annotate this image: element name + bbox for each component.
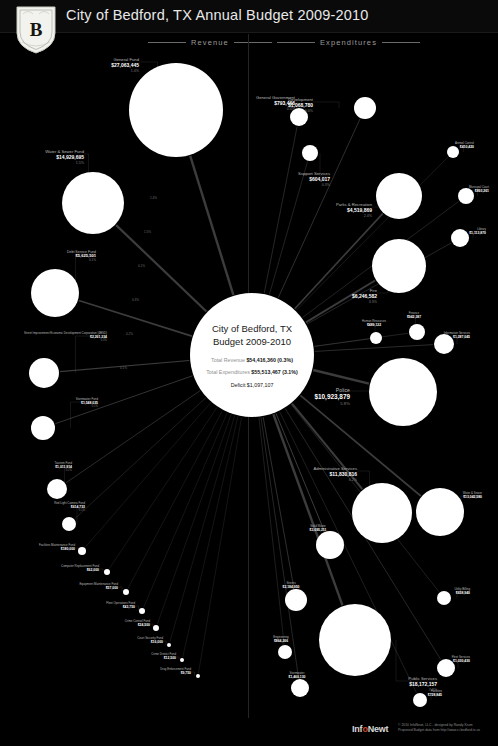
bubble-label: Engineering$864,266: [273, 636, 288, 643]
budget-bubble[interactable]: [123, 589, 129, 595]
footer-credits: © 2010 InfoNewt, LLC - designed by Randy…: [398, 723, 480, 733]
bubble-label: Information Services$1,287,045: [444, 332, 470, 339]
budget-bubble[interactable]: [139, 608, 145, 614]
bubble-label: Red Light Camera Fund$614,7330.1%: [54, 502, 85, 513]
budget-bubble[interactable]: [416, 488, 464, 536]
hub-revenue-value: $54,416,360 (0.3%): [246, 357, 293, 363]
bubble-label-value: $893,261: [469, 189, 489, 193]
svg-text:B: B: [30, 19, 43, 40]
bubble-label: Tourism Fund$1,011,9140.2%: [54, 462, 72, 473]
flow-percent-tick: 0.2%: [126, 332, 133, 336]
hub-expenditures-row: Total Expenditures $55,513,467 (3.1%): [206, 368, 298, 377]
budget-bubble[interactable]: [129, 63, 223, 157]
bubble-label-percent: 5.8%: [314, 401, 350, 406]
bubble-label-percent: 0.3%: [24, 339, 107, 342]
bubble-label: Municipal Court$893,261: [469, 186, 489, 193]
flow-percent-tick: 1.5%: [144, 230, 151, 234]
poster-footer: InfoNewt © 2010 InfoNewt, LLC - designed…: [0, 716, 498, 746]
bubble-label: Police$10,923,8795.8%: [314, 387, 350, 406]
hub-revenue-label: Total Revenue: [211, 357, 245, 363]
bubble-label-value: $1,113,870: [469, 231, 486, 235]
logo-pre: Inf: [352, 724, 362, 734]
hub-deficit: Deficit $1,097,107: [231, 382, 274, 388]
budget-bubble[interactable]: [153, 625, 159, 631]
budget-bubble[interactable]: [47, 479, 67, 499]
budget-bubble[interactable]: [196, 674, 200, 678]
bubble-label: Debt Service Fund$5,625,5010.1%: [67, 250, 96, 263]
bubble-label-value: $27,063,445: [111, 63, 139, 69]
bubble-label: Facilities Maintenance Fund$180,000: [39, 544, 75, 551]
budget-bubble[interactable]: [291, 679, 309, 697]
bubble-label-value: $13,042,580: [463, 495, 482, 499]
bubble-label-percent: 3.3%: [352, 300, 377, 304]
budget-bubble[interactable]: [354, 97, 376, 119]
budget-bubble[interactable]: [413, 693, 427, 707]
bubble-label-value: $1,460,130: [289, 675, 306, 679]
bubble-label: Finance$942,387: [407, 312, 421, 319]
flow-percent-tick: 0.1%: [138, 264, 145, 268]
bubble-label-value: $18,172,157: [408, 682, 437, 688]
center-hub: City of Bedford, TX Budget 2009-2010 Tot…: [190, 293, 314, 417]
bubble-label-value: $12,500: [151, 656, 176, 660]
budget-bubble[interactable]: [437, 591, 451, 605]
budget-bubble[interactable]: [372, 239, 426, 293]
hub-expenditures-label: Total Expenditures: [206, 369, 250, 375]
bubble-label: Fleet Operations Fund$43,750: [106, 602, 135, 609]
budget-bubble[interactable]: [376, 173, 422, 219]
bubble-label-percent: 0.3%: [298, 183, 330, 187]
budget-bubble[interactable]: [285, 589, 307, 611]
bubble-label: General Government$793,4660.4%: [256, 96, 295, 111]
budget-bubble[interactable]: [62, 517, 76, 531]
budget-bubble[interactable]: [451, 229, 469, 247]
budget-bubble[interactable]: [167, 643, 171, 647]
bubble-label: Solid Waste$3,095,211: [310, 525, 327, 532]
bubble-label-value: $410,420: [455, 145, 474, 149]
budget-bubble[interactable]: [302, 145, 318, 161]
bubble-label-value: $24,500: [125, 623, 150, 627]
budget-bubble[interactable]: [78, 547, 86, 555]
bubble-label: Computer Replacement Fund$62,000: [61, 565, 99, 572]
bubble-label-value: $1,030,430: [452, 659, 470, 663]
bubble-label: Support Services$604,0170.3%: [298, 172, 330, 187]
bubble-label: Street Improvement Economic Development …: [24, 332, 107, 343]
flow-percent-tick: 0.1%: [120, 366, 127, 370]
budget-bubble[interactable]: [180, 658, 184, 662]
bubble-label-percent: 0.1%: [67, 259, 96, 263]
bubble-label-value: $180,000: [39, 547, 75, 551]
budget-bubble[interactable]: [370, 332, 382, 344]
budget-infographic-poster: City of Bedford, TX Annual Budget 2009-2…: [0, 0, 498, 746]
bubble-label-value: $57,000: [79, 586, 118, 590]
bubble-label: Fire$6,246,5823.3%: [352, 289, 377, 304]
credit-line-2: Proposed Budget data from http://www.ci.…: [398, 728, 480, 733]
flow-percent-tick: 0.3%: [132, 298, 139, 302]
budget-bubble[interactable]: [352, 483, 412, 543]
budget-bubble[interactable]: [29, 358, 59, 388]
hub-title-line1: City of Bedford, TX: [212, 323, 292, 334]
budget-bubble[interactable]: [31, 269, 79, 317]
flow-percent-tick: 1.4%: [150, 196, 157, 200]
budget-bubble[interactable]: [62, 172, 124, 234]
budget-bubble[interactable]: [409, 324, 425, 340]
bubble-label: Drug Enforcement Fund$9,750: [160, 668, 191, 675]
bubble-label-percent: 0.1%: [76, 405, 98, 408]
bubble-label-value: $3,095,211: [310, 528, 327, 532]
bubble-label-value: $6,246,582: [352, 294, 377, 300]
bubble-label: Animal Control$410,420: [455, 142, 474, 149]
budget-bubble[interactable]: [104, 569, 110, 575]
bubble-label: Stormwater Fund$1,548,0350.1%: [76, 398, 98, 409]
bubble-label-percent: 6.2%: [313, 478, 357, 482]
hub-expenditures-value: $55,513,467 (3.1%): [251, 369, 298, 375]
hub-title-line2: Budget 2009-2010: [213, 336, 291, 347]
bubble-label: Facilities$728,845: [428, 690, 442, 697]
budget-bubble[interactable]: [369, 358, 437, 426]
bubble-label-value: $16,000: [137, 640, 163, 644]
hub-revenue-row: Total Revenue $54,416,360 (0.3%): [211, 356, 293, 365]
budget-bubble[interactable]: [319, 604, 391, 676]
budget-bubble[interactable]: [31, 416, 55, 440]
bubble-label-percent: 1.5%: [45, 161, 84, 165]
bubble-label: Utility Billing$658,940: [454, 588, 470, 595]
bubble-label: Parks & Recreation$4,519,8692.4%: [336, 203, 372, 218]
budget-bubble[interactable]: [316, 531, 344, 559]
bubble-label-percent: 2.4%: [336, 214, 372, 218]
budget-bubble[interactable]: [278, 645, 292, 659]
